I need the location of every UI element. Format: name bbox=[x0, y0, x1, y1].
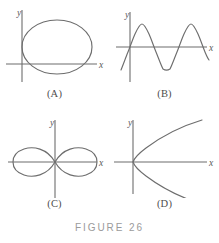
figure-caption: FIGURE 26 bbox=[0, 222, 219, 233]
ellipse-curve bbox=[22, 20, 92, 74]
plot-a: x y bbox=[0, 2, 109, 88]
panel-d-parabola: x y (D) bbox=[110, 112, 219, 220]
y-axis-label-c: y bbox=[49, 118, 55, 128]
parabola-curve bbox=[133, 120, 202, 198]
panel-label-d: (D) bbox=[110, 198, 219, 209]
panel-b-sine-wave: x y (B) bbox=[110, 2, 219, 110]
x-axis-label-b: x bbox=[208, 43, 214, 53]
panel-a-ellipse: x y (A) bbox=[0, 2, 109, 110]
plot-b: x y bbox=[110, 2, 219, 88]
panel-c-lemniscate: x y (C) bbox=[0, 112, 109, 220]
x-axis-label-d: x bbox=[208, 158, 214, 168]
panel-label-a: (A) bbox=[0, 88, 109, 99]
y-axis-label-b: y bbox=[124, 10, 130, 20]
figure-panel-grid: x y (A) x y (B) x y (C) x bbox=[0, 0, 219, 243]
panel-label-c: (C) bbox=[0, 198, 109, 209]
y-axis-label-d: y bbox=[127, 118, 133, 128]
x-axis-label-c: x bbox=[98, 158, 104, 168]
panel-label-b: (B) bbox=[110, 88, 219, 99]
plot-c: x y bbox=[0, 112, 109, 198]
plot-d: x y bbox=[110, 112, 219, 198]
y-axis-label-a: y bbox=[16, 8, 22, 18]
x-axis-label-a: x bbox=[98, 60, 104, 70]
